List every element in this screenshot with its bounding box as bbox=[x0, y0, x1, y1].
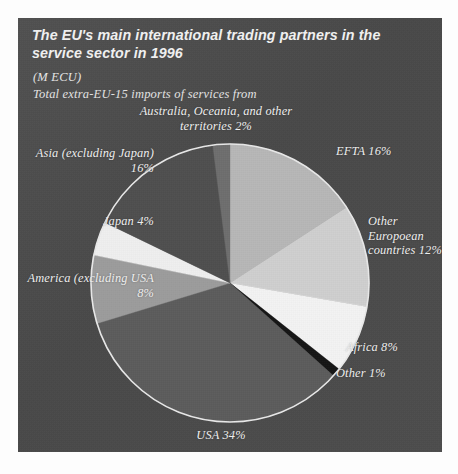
slice-label-other-european: Other Europoean countries 12% bbox=[368, 214, 442, 258]
chart-panel: The EU's main international trading part… bbox=[18, 18, 442, 452]
slice-label-japan: Japan 4% bbox=[26, 214, 154, 229]
slice-label-asia: Asia (excluding Japan) 16% bbox=[26, 146, 154, 175]
slice-label-usa: USA 34% bbox=[146, 428, 296, 443]
figure-root: The EU's main international trading part… bbox=[0, 0, 458, 474]
slice-label-africa: Africa 8% bbox=[346, 340, 442, 355]
slice-label-america: America (excluding USA 8% bbox=[22, 271, 154, 300]
slice-label-other: Other 1% bbox=[336, 366, 436, 381]
slice-label-australia: Australia, Oceania, and other territorie… bbox=[126, 104, 306, 133]
slice-label-efta: EFTA 16% bbox=[336, 144, 436, 159]
